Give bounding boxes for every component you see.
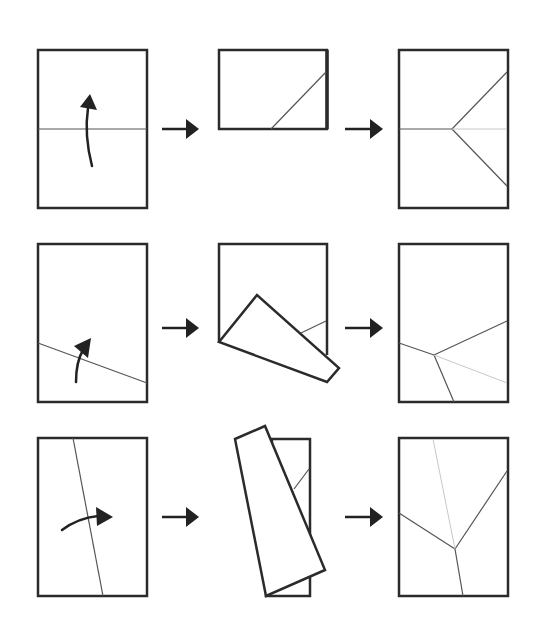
panel-sheet-with-slanted-crease: [38, 244, 147, 402]
arrow-head: [186, 318, 199, 338]
panel-folded-half-sheet: [219, 50, 327, 129]
panel-sheet-with-near-vertical-crease: [38, 438, 147, 596]
folding-diagram: [0, 0, 546, 626]
arrow-head: [370, 119, 383, 139]
paper-sheet: [399, 244, 508, 402]
panel-unfolded-vertical-y-crease: [399, 438, 508, 596]
arrow-head: [370, 507, 383, 527]
paper-sheet: [38, 244, 147, 402]
arrow-head: [370, 318, 383, 338]
row-2-slanted-fold: [38, 244, 508, 402]
step-arrow-icon: [162, 119, 199, 139]
panel-unfolded-y-crease: [399, 50, 508, 208]
step-arrow-icon: [162, 507, 199, 527]
row-3-near-vertical-fold: [38, 426, 508, 596]
paper-sheet: [219, 50, 327, 129]
panel-sheet-with-folded-strip: [235, 426, 325, 596]
paper-sheet: [399, 438, 508, 596]
step-arrow-icon: [162, 318, 199, 338]
step-arrow-icon: [345, 119, 383, 139]
arrow-head: [186, 507, 199, 527]
panel-unfolded-slanted-y-crease: [399, 244, 508, 402]
panel-sheet-with-center-crease: [38, 50, 147, 208]
panel-sheet-with-folded-flap: [219, 244, 339, 382]
arrow-head: [186, 119, 199, 139]
row-1-horizontal-fold: [38, 50, 508, 208]
diagram-canvas: [0, 0, 546, 626]
step-arrow-icon: [345, 507, 383, 527]
step-arrow-icon: [345, 318, 383, 338]
